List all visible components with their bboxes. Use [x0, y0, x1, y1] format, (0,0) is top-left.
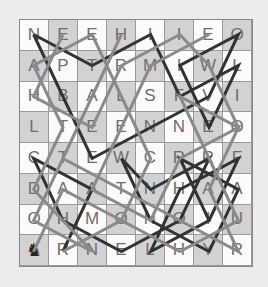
grid-cell[interactable]: ♞	[20, 235, 49, 266]
grid-cell[interactable]: H	[107, 20, 136, 51]
cell-letter: H	[115, 25, 127, 45]
grid-cell[interactable]: A	[78, 82, 107, 113]
grid-cell[interactable]: H	[165, 235, 194, 266]
grid-cell[interactable]: E	[78, 112, 107, 143]
grid-cell[interactable]: R	[49, 235, 78, 266]
grid-cell[interactable]: O	[107, 205, 136, 236]
grid-cell[interactable]: A	[20, 51, 49, 82]
grid-cell[interactable]: N	[136, 112, 165, 143]
cell-letter: R	[57, 240, 69, 260]
grid-cell[interactable]: R	[194, 143, 223, 174]
grid-cell[interactable]: E	[78, 143, 107, 174]
grid-cell[interactable]: A	[78, 174, 107, 205]
cell-letter: R	[231, 240, 243, 260]
cell-letter: E	[57, 25, 68, 45]
cell-letter: O	[27, 209, 40, 229]
grid-cell[interactable]: O	[20, 205, 49, 236]
cell-letter: O	[172, 209, 185, 229]
grid-cell[interactable]: O	[223, 20, 252, 51]
cell-letter: T	[87, 56, 97, 76]
grid-cell[interactable]: N	[165, 112, 194, 143]
grid-cell[interactable]: I	[223, 82, 252, 113]
cell-letter: H	[28, 86, 40, 106]
grid-cell[interactable]: L	[107, 82, 136, 113]
grid-cell[interactable]: I	[136, 20, 165, 51]
grid-cell[interactable]: N	[136, 174, 165, 205]
grid-cell[interactable]: N	[136, 205, 165, 236]
grid-cell[interactable]: I	[165, 20, 194, 51]
cell-letter: O	[114, 209, 127, 229]
grid-cell[interactable]: E	[49, 20, 78, 51]
grid-cell[interactable]: W	[194, 51, 223, 82]
cell-letter: H	[173, 240, 185, 260]
grid-cell[interactable]: E	[107, 112, 136, 143]
grid-cell[interactable]: Y	[194, 235, 223, 266]
cell-letter: I	[148, 25, 153, 45]
cell-letter: N	[173, 117, 185, 137]
cell-letter: I	[206, 209, 211, 229]
grid-cell[interactable]: R	[223, 235, 252, 266]
grid-cell[interactable]: A	[49, 174, 78, 205]
cell-letter: R	[173, 148, 185, 168]
grid-cell[interactable]: H	[49, 205, 78, 236]
grid-cell[interactable]: D	[20, 174, 49, 205]
grid-cell[interactable]: A	[194, 174, 223, 205]
cell-letter: S	[144, 86, 155, 106]
grid-cell[interactable]: B	[49, 82, 78, 113]
cell-letter: E	[86, 117, 97, 137]
grid-cell[interactable]: O	[223, 112, 252, 143]
cell-letter: N	[86, 240, 98, 260]
cell-letter: A	[57, 179, 68, 199]
cell-letter: H	[173, 179, 185, 199]
grid-cell[interactable]: H	[20, 82, 49, 113]
grid-cell[interactable]: C	[20, 143, 49, 174]
grid-cell[interactable]: T	[107, 174, 136, 205]
grid-cell[interactable]: P	[49, 51, 78, 82]
cell-letter: L	[116, 86, 125, 106]
grid-cell[interactable]: L	[223, 51, 252, 82]
cell-letter: H	[57, 209, 69, 229]
cell-letter: U	[231, 209, 243, 229]
cell-letter: A	[86, 86, 97, 106]
cell-letter: O	[230, 117, 243, 137]
cell-letter: W	[200, 56, 216, 76]
grid-cell[interactable]: F	[165, 82, 194, 113]
grid-cell[interactable]: U	[223, 205, 252, 236]
grid-cell[interactable]: S	[136, 82, 165, 113]
grid-cell[interactable]: E	[107, 235, 136, 266]
grid-cell[interactable]: L	[20, 112, 49, 143]
cell-letter: N	[144, 117, 156, 137]
grid-cell[interactable]: H	[165, 174, 194, 205]
grid-cell[interactable]: W	[107, 143, 136, 174]
grid-cell[interactable]: N	[78, 235, 107, 266]
grid-cell[interactable]: M	[78, 205, 107, 236]
grid-cell[interactable]: I	[194, 205, 223, 236]
cell-letter: A	[231, 179, 242, 199]
grid-cell[interactable]: V	[194, 82, 223, 113]
cell-letter: T	[58, 148, 68, 168]
grid-cell[interactable]: A	[223, 174, 252, 205]
grid-cell[interactable]: R	[107, 51, 136, 82]
grid-cell[interactable]: N	[20, 20, 49, 51]
grid-cell[interactable]: L	[136, 235, 165, 266]
cell-letter: C	[144, 148, 156, 168]
cell-letter: L	[232, 56, 241, 76]
grid-cell[interactable]: E	[194, 112, 223, 143]
cell-letter: V	[202, 86, 213, 106]
grid-cell[interactable]: R	[165, 143, 194, 174]
grid-cell[interactable]: O	[165, 205, 194, 236]
cell-letter: E	[202, 25, 213, 45]
grid-cell[interactable]: T	[49, 143, 78, 174]
cell-letter: A	[86, 179, 97, 199]
grid-cell[interactable]: I	[165, 51, 194, 82]
grid-cell[interactable]: C	[136, 143, 165, 174]
cell-letter: N	[144, 209, 156, 229]
grid-cell[interactable]: F	[223, 143, 252, 174]
cell-letter: M	[143, 56, 157, 76]
grid-cell[interactable]: E	[194, 20, 223, 51]
cell-letter: L	[29, 117, 38, 137]
grid-cell[interactable]: M	[136, 51, 165, 82]
grid-cell[interactable]: E	[78, 20, 107, 51]
grid-cell[interactable]: T	[78, 51, 107, 82]
grid-cell[interactable]: T	[49, 112, 78, 143]
